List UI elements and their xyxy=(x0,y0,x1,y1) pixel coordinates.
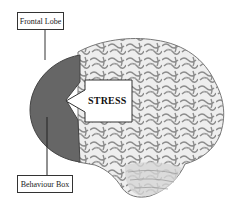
behaviour-box-text: Behaviour Box xyxy=(21,180,70,189)
stress-label: STRESS xyxy=(88,95,126,106)
frontal-lobe-label: Frontal Lobe xyxy=(17,12,64,30)
behaviour-box-label: Behaviour Box xyxy=(17,175,73,193)
frontal-lobe-text: Frontal Lobe xyxy=(20,17,62,26)
frontal-lobe-region xyxy=(30,55,80,162)
